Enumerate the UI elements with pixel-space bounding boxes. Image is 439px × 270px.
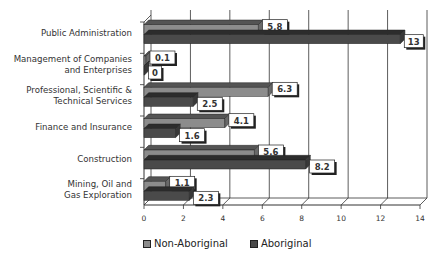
category-label-line: Mining, Oil and xyxy=(64,179,132,190)
category-label: Public Administration xyxy=(41,28,132,39)
bar-top-face xyxy=(144,114,229,119)
floor-tick xyxy=(223,198,230,205)
plot-area: 5.8130.106.32.54.11.65.68.21.12.3 xyxy=(0,0,439,270)
category-label-line: Management of Companies xyxy=(14,54,132,65)
x-tick-label: 8 xyxy=(299,214,304,223)
category-label-line: Technical Services xyxy=(26,96,132,107)
bar-aboriginal xyxy=(144,129,176,138)
legend: Non-Aboriginal Aboriginal xyxy=(143,238,311,249)
x-tick-label: 2 xyxy=(181,214,186,223)
legend-label: Aboriginal xyxy=(261,238,312,249)
bar-aboriginal xyxy=(144,191,189,200)
x-tick-label: 10 xyxy=(336,214,346,223)
category-label: Professional, Scientific &Technical Serv… xyxy=(26,85,132,107)
floor-tick xyxy=(381,198,388,205)
data-label: 0.1 xyxy=(155,53,170,63)
category-label: Management of Companiesand Enterprises xyxy=(14,54,132,76)
data-label: 8.2 xyxy=(315,162,330,172)
x-tick-label: 14 xyxy=(415,214,425,223)
data-label: 2.5 xyxy=(202,99,217,109)
bar-top-face xyxy=(144,83,273,88)
x-tick-label: 4 xyxy=(220,214,225,223)
legend-item-aboriginal: Aboriginal xyxy=(250,238,312,249)
category-label: Finance and Insurance xyxy=(35,122,132,133)
category-label-line: Public Administration xyxy=(41,28,132,39)
bar-top-face xyxy=(144,145,259,150)
horizontal-bar-chart: 5.8130.106.32.54.11.65.68.21.12.3 xyxy=(0,0,439,270)
bar-top-face xyxy=(144,124,180,129)
floor-tick xyxy=(302,198,309,205)
category-label: Mining, Oil andGas Exploration xyxy=(64,179,132,201)
category-label-line: Finance and Insurance xyxy=(35,122,132,133)
legend-swatch-non-aboriginal xyxy=(143,240,151,248)
bar-aboriginal xyxy=(144,97,193,106)
floor-tick xyxy=(420,198,427,205)
category-label-line: and Enterprises xyxy=(14,65,132,76)
bar-aboriginal xyxy=(144,35,400,44)
data-label: 13 xyxy=(408,37,420,47)
category-label-line: Gas Exploration xyxy=(64,190,132,201)
bar-top-face xyxy=(144,93,198,98)
x-tick-label: 12 xyxy=(376,214,386,223)
data-label: 4.1 xyxy=(234,116,249,126)
bar-top-face xyxy=(144,155,310,160)
data-label: 0 xyxy=(152,68,158,78)
data-label: 6.3 xyxy=(277,84,292,94)
bar-top-face xyxy=(144,20,263,25)
category-label: Construction xyxy=(77,154,132,165)
data-label: 1.6 xyxy=(185,131,200,141)
bar-top-face xyxy=(144,187,194,192)
bar-top-face xyxy=(144,30,405,35)
x-tick-label: 6 xyxy=(260,214,265,223)
category-label-line: Professional, Scientific & xyxy=(26,85,132,96)
data-label: 2.3 xyxy=(198,193,213,203)
legend-item-non-aboriginal: Non-Aboriginal xyxy=(143,238,228,249)
x-tick-label: 0 xyxy=(142,214,147,223)
floor-tick xyxy=(341,198,348,205)
category-label-line: Construction xyxy=(77,154,132,165)
bar-non-aboriginal xyxy=(144,56,146,65)
legend-swatch-aboriginal xyxy=(250,240,258,248)
bar-aboriginal xyxy=(144,160,306,169)
legend-label: Non-Aboriginal xyxy=(154,238,228,249)
floor-tick xyxy=(262,198,269,205)
